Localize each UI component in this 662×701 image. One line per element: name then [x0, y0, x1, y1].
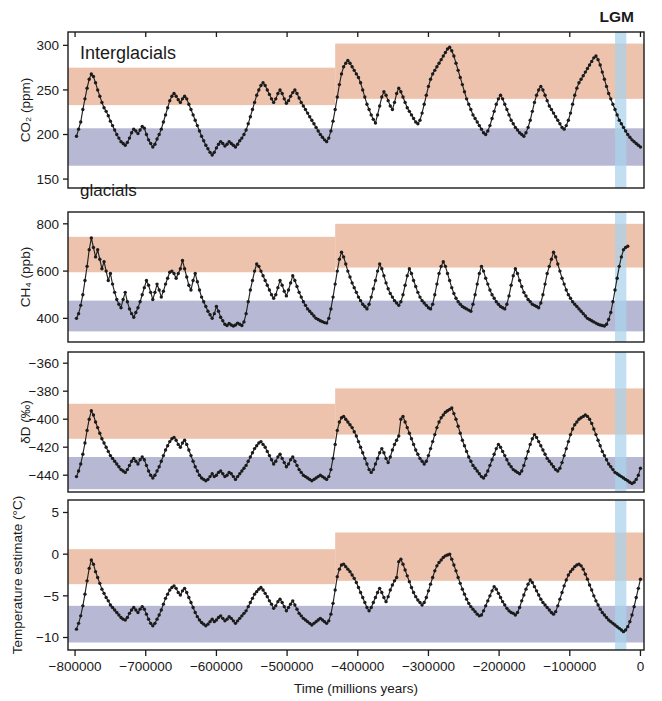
x-tick-label: −400000	[331, 659, 384, 674]
glacials-label: glacials	[80, 181, 137, 200]
paleoclimate-figure: 300250200150CO₂ (ppm)800600400CH₄ (ppb)−…	[0, 0, 662, 701]
interglacial-band	[68, 549, 335, 584]
interglacial-band	[68, 68, 335, 105]
y-tick-label: 400	[36, 311, 59, 326]
ice-core-timeseries-chart: 300250200150CO₂ (ppm)800600400CH₄ (ppb)−…	[0, 0, 662, 701]
y-tick-label: −5	[44, 589, 59, 604]
x-tick-label: −600000	[190, 659, 243, 674]
interglacial-band	[335, 224, 644, 268]
y-tick-label: −380	[29, 384, 59, 399]
y-axis-title: Temperature estimate (°C)	[10, 496, 25, 654]
x-axis: −800000−700000−600000−500000−400000−3000…	[49, 650, 645, 696]
panel-content	[68, 352, 644, 492]
y-tick-label: −440	[29, 468, 59, 483]
y-tick-label: −420	[29, 440, 59, 455]
y-tick-label: −10	[36, 630, 59, 645]
interglacial-band	[68, 404, 335, 439]
interglacial-band	[335, 44, 644, 99]
y-tick-label: 150	[36, 172, 59, 187]
y-tick-label: 250	[36, 83, 59, 98]
y-tick-label: 800	[36, 217, 59, 232]
y-tick-label: 300	[36, 38, 59, 53]
x-tick-label: 0	[637, 659, 645, 674]
y-tick-label: 5	[51, 505, 59, 520]
x-tick-label: −100000	[543, 659, 596, 674]
x-tick-label: −700000	[119, 659, 172, 674]
x-tick-label: −800000	[49, 659, 102, 674]
y-tick-label: −360	[29, 356, 59, 371]
y-tick-label: −400	[29, 412, 59, 427]
lgm-band	[615, 32, 626, 188]
interglacial-band	[335, 533, 644, 581]
interglacial-band	[335, 388, 644, 434]
x-tick-label: −500000	[261, 659, 314, 674]
y-axis-title: CO₂ (ppm)	[18, 78, 33, 143]
x-tick-label: −200000	[473, 659, 526, 674]
panel-4: 50−5−10Temperature estimate (°C)	[10, 496, 644, 654]
glacial-band	[68, 301, 644, 332]
x-tick-label: −300000	[402, 659, 455, 674]
interglacial-band	[68, 237, 335, 272]
y-axis-title: CH₄ (ppb)	[18, 247, 33, 307]
x-axis-title: Time (millions years)	[294, 681, 418, 696]
panel-content	[68, 500, 644, 650]
y-axis-title: δD (‰)	[18, 400, 33, 444]
y-tick-label: 200	[36, 127, 59, 142]
glacial-band	[68, 457, 644, 489]
lgm-band	[615, 352, 626, 492]
lgm-label: LGM	[600, 8, 634, 25]
panel-3: −360−380−400−420−440δD (‰)	[18, 352, 644, 492]
y-tick-label: 600	[36, 264, 59, 279]
y-tick-label: 0	[51, 547, 59, 562]
interglacials-label: Interglacials	[80, 43, 176, 63]
